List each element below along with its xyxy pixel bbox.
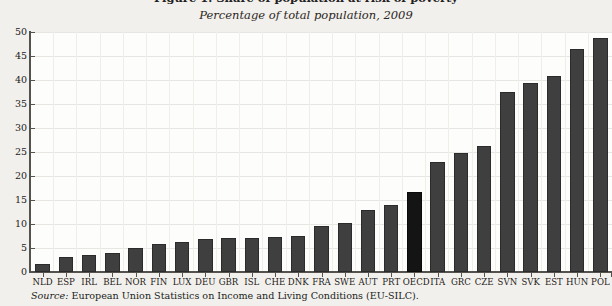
y-tick-value: 0 bbox=[5, 267, 27, 276]
bar-prt bbox=[384, 205, 398, 272]
bar-slot bbox=[221, 32, 235, 272]
x-tick-label-che: CHE bbox=[263, 276, 286, 288]
bar-slot bbox=[59, 32, 73, 272]
bar-hun bbox=[570, 49, 584, 272]
bar-nor bbox=[128, 248, 142, 272]
y-tick-label-15: 15 bbox=[0, 195, 27, 205]
bar-series bbox=[31, 32, 612, 272]
bar-slot bbox=[407, 32, 421, 272]
y-tick-label-5: 5 bbox=[0, 243, 27, 253]
bar-che bbox=[268, 237, 282, 272]
bar-slot bbox=[152, 32, 166, 272]
x-tick-label-swe: SWE bbox=[333, 276, 356, 288]
bar-bel bbox=[105, 253, 119, 272]
x-tick-label-nld: NLD bbox=[31, 276, 54, 288]
x-tick-label-cze: CZE bbox=[473, 276, 496, 288]
bar-est bbox=[547, 76, 561, 272]
bar-dnk bbox=[291, 236, 305, 272]
figure-title-clipped: Figure 1. Share of population at risk of… bbox=[0, 0, 612, 7]
x-tick-label-deu: DEU bbox=[194, 276, 217, 288]
y-tick-label-10: 10 bbox=[0, 219, 27, 229]
y-tick-value: 35 bbox=[5, 99, 27, 108]
x-tick-label-nor: NOR bbox=[124, 276, 147, 288]
bar-slot bbox=[523, 32, 537, 272]
x-tick-label-lux: LUX bbox=[170, 276, 193, 288]
bar-slot bbox=[35, 32, 49, 272]
bar-slot bbox=[338, 32, 352, 272]
bar-slot bbox=[500, 32, 514, 272]
bar-svn bbox=[500, 92, 514, 272]
figure-title-text: Figure 1. Share of population at risk of… bbox=[0, 0, 612, 7]
bar-isl bbox=[245, 238, 259, 272]
y-tick-value: 20 bbox=[5, 171, 27, 180]
x-tick-label-svk: SVK bbox=[519, 276, 542, 288]
bar-irl bbox=[82, 255, 96, 272]
bar-slot bbox=[82, 32, 96, 272]
x-tick-label-svn: SVN bbox=[496, 276, 519, 288]
bar-slot bbox=[198, 32, 212, 272]
x-tick-label-grc: GRC bbox=[449, 276, 472, 288]
y-tick-value: 10 bbox=[5, 219, 27, 228]
bar-slot bbox=[430, 32, 444, 272]
y-tick-value: 30 bbox=[5, 123, 27, 132]
bar-lux bbox=[175, 242, 189, 272]
bar-oecd bbox=[407, 192, 421, 272]
bar-slot bbox=[105, 32, 119, 272]
bar-slot bbox=[547, 32, 561, 272]
y-tick-value: 5 bbox=[5, 243, 27, 252]
x-tick-label-pol: POL bbox=[589, 276, 612, 288]
y-tick-label-0: 0 bbox=[0, 267, 27, 277]
bar-slot bbox=[175, 32, 189, 272]
x-tick-label-fra: FRA bbox=[310, 276, 333, 288]
x-tick-label-aut: AUT bbox=[356, 276, 379, 288]
x-tick-label-gbr: GBR bbox=[217, 276, 240, 288]
x-tick-label-prt: PRT bbox=[380, 276, 403, 288]
figure-subtitle: Percentage of total population, 2009 bbox=[0, 8, 612, 22]
bar-slot bbox=[384, 32, 398, 272]
bar-slot bbox=[454, 32, 468, 272]
bar-slot bbox=[477, 32, 491, 272]
x-tick-label-ita: ITA bbox=[426, 276, 449, 288]
x-axis-labels: NLDESPIRLBELNORFINLUXDEUGBRISLCHEDNKFRAS… bbox=[31, 276, 612, 290]
bar-svk bbox=[523, 83, 537, 272]
y-tick-label-50: 50 bbox=[0, 27, 27, 37]
bar-pol bbox=[593, 38, 607, 272]
x-tick-label-est: EST bbox=[542, 276, 565, 288]
x-tick-label-bel: BEL bbox=[101, 276, 124, 288]
x-tick-label-irl: IRL bbox=[77, 276, 100, 288]
figure-container: Figure 1. Share of population at risk of… bbox=[0, 0, 612, 306]
y-tick-label-25: 25 bbox=[0, 147, 27, 157]
x-tick-label-hun: HUN bbox=[566, 276, 589, 288]
bar-grc bbox=[454, 153, 468, 272]
bar-slot bbox=[128, 32, 142, 272]
source-label: Source: bbox=[31, 290, 68, 301]
bar-gbr bbox=[221, 238, 235, 272]
y-tick-value: 25 bbox=[5, 147, 27, 156]
y-tick-value: 50 bbox=[5, 27, 27, 36]
y-tick-value: 15 bbox=[5, 195, 27, 204]
bar-slot bbox=[361, 32, 375, 272]
bar-slot bbox=[245, 32, 259, 272]
bar-esp bbox=[59, 257, 73, 272]
x-tick-label-esp: ESP bbox=[54, 276, 77, 288]
y-tick-label-35: 35 bbox=[0, 99, 27, 109]
bar-slot bbox=[593, 32, 607, 272]
bar-slot bbox=[570, 32, 584, 272]
y-tick-value: 45 bbox=[5, 51, 27, 60]
bar-nld bbox=[35, 264, 49, 272]
y-tick-label-45: 45 bbox=[0, 51, 27, 61]
y-tick-label-20: 20 bbox=[0, 171, 27, 181]
bar-slot bbox=[314, 32, 328, 272]
bar-swe bbox=[338, 223, 352, 272]
bar-cze bbox=[477, 146, 491, 272]
y-tick-label-30: 30 bbox=[0, 123, 27, 133]
bar-fra bbox=[314, 226, 328, 272]
x-tick-label-fin: FIN bbox=[147, 276, 170, 288]
source-note: Source: European Union Statistics on Inc… bbox=[31, 290, 419, 301]
bar-slot bbox=[291, 32, 305, 272]
x-tick-label-dnk: DNK bbox=[287, 276, 310, 288]
y-tick-value: 40 bbox=[5, 75, 27, 84]
x-tick-label-oecd: OECD bbox=[403, 276, 426, 288]
bar-fin bbox=[152, 244, 166, 272]
x-tick-label-isl: ISL bbox=[240, 276, 263, 288]
